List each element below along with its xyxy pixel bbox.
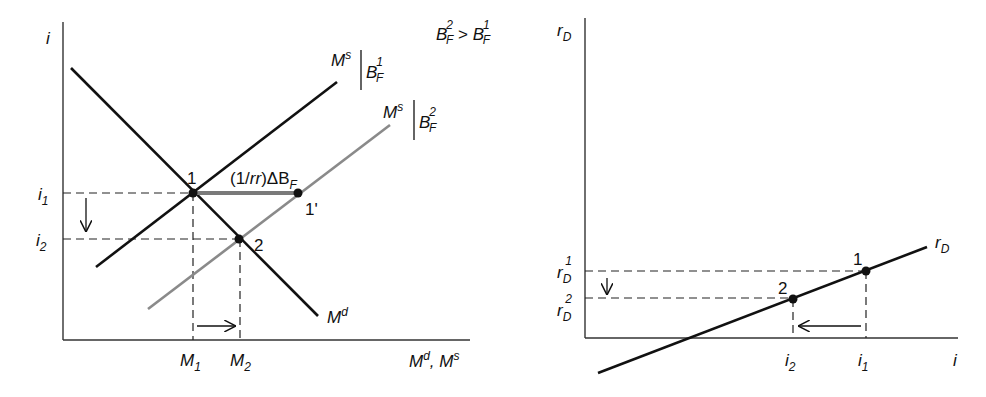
point-1-label: 1 [187,169,196,188]
shift-label: (1/rr)ΔBF [230,169,298,192]
left-x-label: Md, Ms [409,349,459,371]
right-y-label: rD [557,21,572,44]
right-point-2 [789,295,798,304]
point-2-label: 2 [254,236,263,255]
rd-curve-label: rD [935,233,950,256]
rd2-tick-label: rD2 [557,292,572,324]
right-x-label: i [953,351,958,370]
point-1 [189,189,198,198]
m2-tick-label: M2 [230,351,251,374]
rd1-tick-label: rD1 [557,254,572,286]
left-y-label: i [46,29,51,48]
right-point-2-label: 2 [778,279,787,298]
right-point-1-label: 1 [853,250,862,269]
m1-tick-label: M1 [180,351,201,374]
right-point-1 [862,267,871,276]
rd-curve [598,247,927,373]
i2-tick-label-right: i2 [785,351,796,374]
demand-label: Md [327,305,348,327]
supply-2-label: Ms B2F [383,100,437,140]
svg-text:Ms: Ms [383,100,403,122]
right-panel: 1 2 rD rD i rD1 rD2 i2 i1 [557,18,958,374]
i1-tick-label-right: i1 [858,351,868,374]
svg-text:Ms: Ms [331,48,351,70]
i1-tick-label: i1 [38,185,48,208]
supply-curve-2 [148,125,390,309]
supply-curve-1 [96,82,337,267]
diagram-canvas: i 1 1' 2 (1/rr)ΔBF i1 i2 M1 M2 Md, Ms Md… [0,0,986,397]
condition-label: B2F > B1F [436,18,491,47]
i2-tick-label: i2 [36,231,47,254]
point-2 [235,235,244,244]
point-1-prime-label: 1' [305,200,318,219]
svg-text:B2F: B2F [419,105,437,135]
supply-1-label: Ms B1F [331,48,384,90]
left-panel: i 1 1' 2 (1/rr)ΔBF i1 i2 M1 M2 Md, Ms Md… [36,18,491,374]
svg-text:B1F: B1F [366,55,384,85]
